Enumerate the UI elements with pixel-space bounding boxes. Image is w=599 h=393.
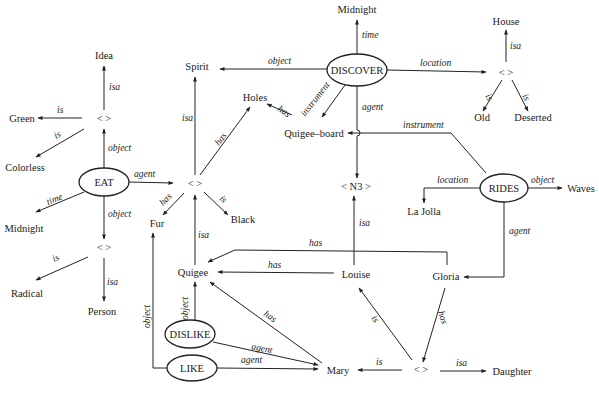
label-isa: isa [456,358,467,368]
node-anon2: < > [97,242,112,253]
edge-rides-location-lajolla [424,188,481,203]
label-object: object [108,143,132,153]
node-daughter: Daughter [492,366,532,377]
label-is: is [520,92,532,103]
edge-like-object-fur [153,233,167,368]
edge-gloria-has-quigee [208,250,447,265]
event-dislike-label: DISLIKE [170,329,211,340]
label-isa: isa [359,218,370,228]
node-black: Black [231,214,256,225]
node-gloria: Gloria [433,271,460,282]
edge-rides-instrument-line [360,133,486,173]
node-quigee-board: Quigee–board [284,128,344,139]
label-has: has [268,260,282,270]
node-green: Green [9,113,35,124]
event-eat: EAT [79,168,129,196]
node-person: Person [88,306,117,317]
event-eat-label: EAT [94,177,114,188]
edge-discover-location-anon4 [387,70,486,72]
relation-labels: isa is is object agent time object is is… [45,30,555,368]
label-has: has [436,310,450,326]
label-is: is [369,313,381,324]
event-like-label: LIKE [180,363,204,374]
label-is: is [57,105,64,115]
node-mary: Mary [327,365,350,376]
node-colorless: Colorless [5,162,45,173]
label-is: is [51,252,61,264]
label-has: has [157,191,174,208]
event-nodes: EAT DISCOVER RIDES DISLIKE LIKE [79,54,528,381]
label-agent: agent [509,226,530,236]
edge-anon2-is-radical [36,257,88,280]
node-anon1: < > [97,113,112,124]
label-agent: agent [251,341,274,355]
label-has: has [276,103,293,119]
label-isa: isa [107,277,118,287]
node-midnight-2: Midnight [337,4,376,15]
node-n3: < N3 > [341,181,371,192]
label-has: has [309,238,323,248]
node-house: House [493,16,520,27]
edge-gloria-has-anon5 [423,288,445,362]
edge-eat-agent-anon3 [128,182,173,183]
label-location: location [420,58,451,68]
edge-anon1-is-colorless [36,129,84,157]
event-dislike: DISLIKE [165,320,215,348]
node-old: Old [474,112,491,123]
label-location: location [437,175,468,185]
label-is: is [52,129,63,141]
node-la-jolla: La Jolla [407,206,441,217]
node-waves: Waves [567,183,595,194]
label-has: has [262,308,279,324]
node-deserted: Deserted [514,112,552,123]
node-louise: Louise [342,269,371,280]
node-fur: Fur [150,218,165,229]
label-isa: isa [182,113,193,123]
event-rides-label: RIDES [489,183,519,194]
label-instrument: instrument [299,80,332,118]
node-anon5: < > [414,364,429,375]
label-agent: agent [362,102,383,112]
label-isa: isa [510,41,521,51]
label-object: object [268,56,292,66]
label-time: time [362,30,378,40]
label-agent: agent [241,355,262,365]
label-isa: isa [198,230,209,240]
event-like: LIKE [167,355,217,381]
node-quigee: Quigee [178,267,209,278]
node-radical: Radical [11,288,43,299]
node-idea: Idea [95,50,113,61]
node-holes: Holes [243,92,268,103]
label-has: has [213,130,229,147]
node-anon4: < > [499,67,514,78]
label-object: object [142,304,152,328]
label-isa: isa [109,82,120,92]
edge-louise-has-quigee [218,272,334,273]
label-agent: agent [134,169,155,179]
label-is: is [376,357,383,367]
label-time: time [45,191,64,206]
event-rides: RIDES [480,174,528,202]
edge-discover-agent-n3 [357,86,360,178]
edge-rides-agent-gloria [464,202,504,277]
label-object: object [531,175,555,185]
edge-like-agent-mary [217,368,318,369]
node-anon3: < > [188,178,203,189]
node-midnight-1: Midnight [4,223,43,234]
node-spirit: Spirit [185,61,208,72]
event-discover: DISCOVER [327,54,387,86]
label-object: object [180,296,190,320]
label-instrument: instrument [403,120,444,130]
semantic-network-diagram: EAT DISCOVER RIDES DISLIKE LIKE Idea < >… [0,0,599,393]
label-object: object [108,209,132,219]
edge-anon5-is-louise [359,288,412,360]
label-is: is [218,193,230,205]
event-discover-label: DISCOVER [331,65,384,76]
